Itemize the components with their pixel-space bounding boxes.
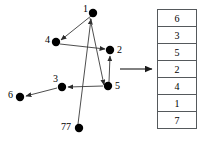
node-4[interactable]	[52, 38, 60, 46]
edge-5-to-3	[68, 86, 103, 87]
node-1[interactable]	[89, 9, 97, 17]
node-label-3: 3	[53, 74, 58, 84]
node-5[interactable]	[104, 82, 112, 90]
node-2[interactable]	[106, 46, 114, 54]
node-label-2: 2	[117, 45, 122, 55]
node-label-77: 77	[61, 122, 71, 132]
node-label-6: 6	[8, 90, 13, 100]
table-cell: 1	[158, 95, 196, 112]
graph-edges	[26, 16, 110, 124]
edge-77-to-1	[78, 19, 91, 124]
edge-1-to-5	[90, 18, 104, 85]
node-3[interactable]	[58, 83, 66, 91]
node-label-1: 1	[83, 4, 88, 14]
node-77[interactable]	[75, 124, 83, 132]
node-label-4: 4	[45, 35, 50, 45]
table-cell: 4	[158, 78, 196, 95]
node-6[interactable]	[16, 93, 24, 101]
edge-3-to-6	[26, 88, 57, 96]
node-label-5: 5	[115, 81, 120, 91]
edge-4-to-2	[60, 44, 105, 49]
table-cell: 6	[158, 10, 196, 27]
topological-order-table: 6 3 5 2 4 1 7	[157, 9, 197, 129]
figure-container: 1 4 2 5 3 6 77 6 3 5 2 4 1 7	[0, 0, 207, 147]
table-cell: 3	[158, 27, 196, 44]
table-cell: 7	[158, 112, 196, 129]
edge-5-to-2	[109, 56, 110, 82]
table-cell: 5	[158, 44, 196, 61]
table-cell: 2	[158, 61, 196, 78]
graph-nodes	[16, 9, 114, 132]
edge-1-to-4	[61, 16, 91, 40]
